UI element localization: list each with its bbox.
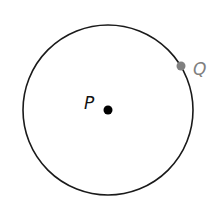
label-p: P: [84, 93, 95, 113]
circle-diagram: P Q: [0, 0, 221, 203]
label-q: Q: [193, 59, 206, 79]
point-q: [177, 62, 186, 71]
point-p: [104, 106, 113, 115]
